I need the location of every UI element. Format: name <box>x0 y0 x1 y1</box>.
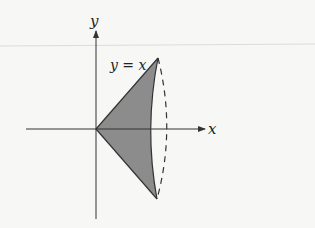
diagram-canvas: x y y = x <box>0 0 315 228</box>
cone-of-revolution-diagram: x y y = x <box>0 0 315 228</box>
scan-artifact-line <box>0 44 315 46</box>
curve-label: y = x <box>109 57 147 73</box>
y-axis-label: y <box>89 12 99 30</box>
x-axis-label: x <box>208 120 217 138</box>
